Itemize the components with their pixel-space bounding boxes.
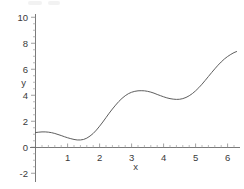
x-tick-label-1: 1 bbox=[65, 152, 70, 163]
x-tick-label-6: 6 bbox=[225, 152, 230, 163]
x-tick-label-5: 5 bbox=[193, 152, 198, 163]
x-tick-label-2: 2 bbox=[97, 152, 102, 163]
y-tick-label-10: 10 bbox=[17, 12, 28, 23]
y-tick-label-2: 2 bbox=[23, 116, 28, 127]
x-axis-major-ticks bbox=[68, 144, 228, 148]
data-series-line bbox=[36, 52, 237, 140]
y-tick-label-0: 0 bbox=[23, 142, 28, 153]
y-tick-label-4: 4 bbox=[23, 90, 28, 101]
y-axis-title: y bbox=[21, 77, 26, 88]
chart-figure: 10 8 6 4 2 0 -2 y bbox=[0, 0, 244, 189]
x-axis-group: 1 2 3 4 5 6 x bbox=[30, 144, 240, 173]
x-axis-title: x bbox=[133, 161, 138, 172]
y-axis-group: 10 8 6 4 2 0 -2 y bbox=[17, 12, 35, 183]
x-tick-label-4: 4 bbox=[161, 152, 166, 163]
y-axis-major-ticks bbox=[31, 17, 36, 173]
y-tick-label-8: 8 bbox=[23, 38, 28, 49]
y-tick-label-6: 6 bbox=[23, 64, 28, 75]
y-tick-label-neg2: -2 bbox=[20, 168, 28, 179]
chart-canvas: 10 8 6 4 2 0 -2 y bbox=[0, 0, 244, 189]
